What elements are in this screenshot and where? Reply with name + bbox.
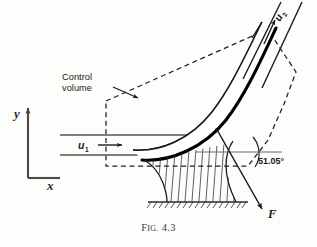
caption-ig: IG.: [147, 224, 159, 233]
inlet-velocity-symbol: u: [78, 139, 85, 151]
diagram-labels: y x u 1 u 2 Control volume 51.05° F: [12, 8, 289, 221]
control-volume-boundary: [106, 30, 296, 166]
ground-support: [147, 202, 248, 208]
control-volume-label-line2: volume: [62, 83, 92, 93]
figure-container: y x u 1 u 2 Control volume 51.05° F FIG.: [0, 0, 317, 247]
inlet-velocity-subscript: 1: [85, 146, 89, 153]
figure-caption: FIG. 4.3: [0, 222, 317, 233]
force-annotation: [196, 128, 282, 209]
ground-hatching: [147, 202, 246, 208]
coordinate-axes: [28, 108, 60, 178]
x-axis-label: x: [46, 178, 54, 193]
control-volume-dashed-outline: [106, 30, 296, 166]
control-volume-label-line1: Control: [62, 72, 92, 82]
force-label: F: [267, 207, 277, 221]
angle-label: 51.05°: [258, 156, 285, 166]
diagram-canvas: y x u 1 u 2 Control volume 51.05° F: [0, 0, 317, 247]
y-axis-label: y: [12, 106, 20, 121]
inlet-velocity-label: u 1: [78, 139, 89, 153]
caption-number: 4.3: [162, 222, 176, 233]
